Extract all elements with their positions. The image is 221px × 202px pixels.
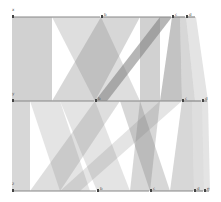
axis-name-label: x xyxy=(12,7,15,12)
category-label: b xyxy=(104,12,107,17)
ribbon-top xyxy=(12,17,52,101)
ribbon-bottom xyxy=(170,101,194,191)
category-marker xyxy=(101,15,103,18)
category-marker xyxy=(186,15,188,18)
category-marker xyxy=(202,99,204,102)
category-marker xyxy=(204,189,206,192)
category-marker xyxy=(172,15,174,18)
parallel-sets-diagram: xbcdybcdzbcde xyxy=(0,0,221,202)
category-marker xyxy=(194,189,196,192)
category-label: c xyxy=(175,12,177,17)
category-marker xyxy=(182,99,184,102)
ribbon-bottom xyxy=(12,101,30,191)
category-label: d xyxy=(189,12,192,17)
ribbon-top xyxy=(160,17,182,101)
axis-name-label: z xyxy=(12,181,14,186)
category-marker xyxy=(97,189,99,192)
diagram-canvas: xbcdybcdzbcde xyxy=(0,0,221,202)
category-marker xyxy=(12,99,14,102)
category-marker xyxy=(150,189,152,192)
category-label: c xyxy=(185,96,187,101)
category-marker xyxy=(12,189,14,192)
ribbon-bottom xyxy=(192,101,204,191)
category-marker xyxy=(12,15,14,18)
category-label: c xyxy=(153,186,155,191)
category-marker xyxy=(95,99,97,102)
